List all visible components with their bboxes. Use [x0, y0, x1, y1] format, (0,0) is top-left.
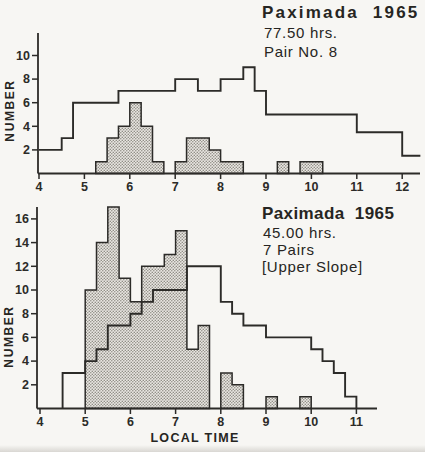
y-tick-label: 10 — [16, 49, 30, 63]
x-tick-label: 9 — [263, 180, 270, 194]
x-tick-label: 10 — [304, 180, 318, 194]
y-tick-label: 4 — [23, 120, 30, 134]
y-tick-label: 4 — [22, 354, 29, 368]
bottom-chart-hours-label: 45.00 hrs. — [263, 225, 337, 242]
hatched-histogram — [85, 207, 209, 408]
top-chart-y-axis-label: NUMBER — [3, 69, 18, 153]
bottom-chart-slope-label: [Upper Slope] — [262, 259, 363, 276]
y-tick-label: 12 — [15, 260, 29, 274]
x-tick-label: 5 — [81, 180, 88, 194]
x-tick-label: 6 — [127, 415, 134, 429]
y-tick-label: 14 — [15, 236, 29, 250]
bottom-chart-pairs-label: 7 Pairs — [263, 242, 315, 259]
hatched-histogram — [175, 138, 243, 173]
top-chart: 456789101112246810 — [16, 33, 420, 194]
open-histogram-outline — [39, 67, 420, 156]
figure-svg: 4567891011122468104567891011246810121416 — [0, 0, 425, 452]
x-tick-label: 6 — [126, 180, 133, 194]
y-tick-label: 10 — [15, 283, 29, 297]
hatched-histogram — [221, 373, 244, 409]
x-tick-label: 11 — [350, 415, 363, 429]
hatched-histogram — [300, 162, 323, 174]
bottom-chart-y-axis-label: NUMBER — [2, 295, 17, 379]
y-tick-label: 6 — [23, 96, 30, 110]
top-chart-pair-label: Pair No. 8 — [264, 44, 338, 61]
hatched-histogram — [300, 397, 311, 409]
y-tick-label: 2 — [23, 143, 30, 157]
hatched-histogram — [277, 162, 288, 174]
x-tick-label: 8 — [217, 415, 224, 429]
y-tick-label: 2 — [22, 378, 29, 392]
x-tick-label: 4 — [36, 180, 43, 194]
x-tick-label: 11 — [350, 180, 363, 194]
hatched-histogram — [266, 397, 277, 409]
x-tick-label: 5 — [82, 415, 89, 429]
x-tick-label: 9 — [263, 415, 270, 429]
bottom-chart-title: Paximada 1965 — [262, 205, 394, 224]
x-tick-label: 8 — [217, 180, 224, 194]
y-tick-label: 16 — [15, 212, 29, 226]
x-axis-label: LOCAL TIME — [150, 431, 240, 445]
x-tick-label: 12 — [395, 180, 409, 194]
x-tick-label: 7 — [172, 415, 179, 429]
x-tick-label: 10 — [304, 415, 318, 429]
y-tick-label: 6 — [22, 331, 29, 345]
y-tick-label: 8 — [22, 307, 29, 321]
x-tick-label: 7 — [172, 180, 179, 194]
x-tick-label: 4 — [37, 415, 44, 429]
top-chart-hours-label: 77.50 hrs. — [264, 25, 338, 42]
top-chart-title: Paximada 1965 — [262, 4, 419, 23]
y-tick-label: 8 — [23, 72, 30, 86]
hatched-histogram — [96, 103, 164, 174]
figure: 4567891011122468104567891011246810121416… — [0, 0, 425, 452]
